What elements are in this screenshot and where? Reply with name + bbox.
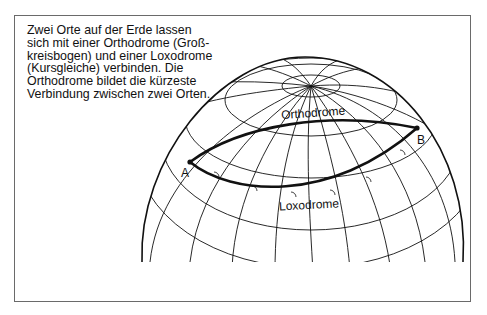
point-b-marker — [414, 125, 419, 130]
loxodrome-label: Loxodrome — [279, 196, 340, 213]
globe-diagram: A B Orthodrome Loxodrome — [0, 0, 487, 315]
globe-grid — [136, 28, 486, 272]
point-a-marker — [187, 159, 192, 164]
orthodrome-path — [190, 120, 417, 162]
point-a-label: A — [181, 166, 189, 180]
point-b-label: B — [417, 133, 425, 147]
